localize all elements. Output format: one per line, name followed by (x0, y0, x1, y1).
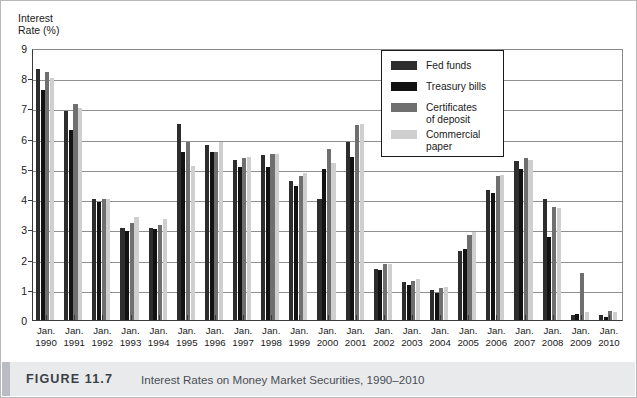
bar (472, 232, 476, 320)
bar (444, 287, 448, 320)
bar-group (258, 50, 286, 320)
bar (374, 269, 378, 320)
bar (247, 157, 251, 320)
bar (463, 249, 467, 320)
bar (557, 208, 561, 320)
bar (528, 160, 532, 320)
x-axis-tick-mark (102, 315, 103, 321)
bar (360, 124, 364, 320)
bar (102, 199, 106, 320)
x-axis-tick-mark (74, 315, 75, 321)
figure-number-label: FIGURE 11.7 (26, 372, 113, 386)
bar (294, 186, 298, 320)
bar (177, 124, 181, 320)
bar (378, 270, 382, 320)
bar (186, 142, 190, 320)
figure-caption-bar: FIGURE 11.7 Interest Rates on Money Mark… (2, 362, 635, 396)
x-axis-tick-mark (553, 315, 554, 321)
x-axis-tick-mark (525, 315, 526, 321)
x-axis-tick-label: Jan.2010 (592, 325, 626, 348)
x-axis-tick-mark (440, 315, 441, 321)
x-axis-tick-mark (468, 315, 469, 321)
bar (163, 219, 167, 320)
legend-color-swatch (391, 61, 417, 70)
bar (191, 166, 195, 320)
y-axis-tick-label: 4 (11, 194, 27, 206)
x-axis-tick-mark (496, 315, 497, 321)
legend-item-label: Treasury bills (426, 81, 486, 93)
bar (64, 111, 68, 320)
bar-group (117, 50, 145, 320)
bar (571, 315, 575, 320)
bar (130, 223, 134, 320)
bar (261, 155, 265, 320)
bar (181, 152, 185, 320)
bar-group (202, 50, 230, 320)
bar (69, 130, 73, 320)
legend-color-swatch (391, 82, 417, 91)
x-axis-tick-mark (581, 315, 582, 321)
bar (153, 229, 157, 320)
legend-item-label: Fed funds (426, 60, 471, 72)
bar (552, 207, 556, 320)
x-label-year: 2010 (592, 337, 626, 349)
x-axis-tick-mark (271, 315, 272, 321)
x-axis-tick-mark (412, 315, 413, 321)
bar (289, 181, 293, 320)
bar-group (33, 50, 61, 320)
y-axis-tick-label: 9 (11, 43, 27, 55)
bar (158, 225, 162, 320)
bar (120, 228, 124, 320)
x-axis-tick-mark (46, 315, 47, 321)
legend-item: Treasury bills (391, 81, 486, 93)
y-axis-tick-label: 0 (11, 315, 27, 327)
y-axis-tick-label: 3 (11, 224, 27, 236)
bar (50, 78, 54, 320)
x-axis-tick-mark (131, 315, 132, 321)
bar (350, 157, 354, 320)
bar-group (596, 50, 624, 320)
bar (388, 264, 392, 320)
x-axis-tick-mark (328, 315, 329, 321)
bar (467, 235, 471, 320)
bar (106, 199, 110, 320)
bar (219, 142, 223, 320)
bar (233, 160, 237, 320)
bar (547, 237, 551, 320)
bar (322, 169, 326, 320)
bar (407, 285, 411, 320)
x-axis-tick-mark (159, 315, 160, 321)
y-axis-tick-label: 7 (11, 103, 27, 115)
x-axis-tick-mark (384, 315, 385, 321)
bar (270, 154, 274, 320)
bar (458, 251, 462, 321)
bar (346, 142, 350, 320)
bar-group (61, 50, 89, 320)
bar (496, 176, 500, 320)
bar (134, 217, 138, 320)
bar (242, 158, 246, 320)
bar-group (568, 50, 596, 320)
bar (331, 163, 335, 320)
bar (383, 264, 387, 320)
y-axis-tick-label: 8 (11, 73, 27, 85)
bar (524, 158, 528, 320)
bar (205, 145, 209, 320)
bar (604, 317, 608, 320)
bar-group (511, 50, 539, 320)
bar (266, 167, 270, 320)
bar-group (343, 50, 371, 320)
bar (575, 314, 579, 320)
bar (435, 293, 439, 320)
bar (214, 152, 218, 320)
bar (599, 315, 603, 320)
bar-group (286, 50, 314, 320)
legend-item-label: Certificates of deposit (426, 102, 477, 125)
bar (92, 199, 96, 320)
bar (486, 190, 490, 320)
figure-container: Interest Rate (%) 0123456789 Jan.1990Jan… (0, 0, 637, 398)
chart-legend: Fed fundsTreasury billsCertificates of d… (381, 50, 504, 157)
y-axis-tick-label: 5 (11, 164, 27, 176)
figure-caption-text: Interest Rates on Money Market Securitie… (141, 373, 425, 386)
legend-item: Certificates of deposit (391, 102, 477, 125)
